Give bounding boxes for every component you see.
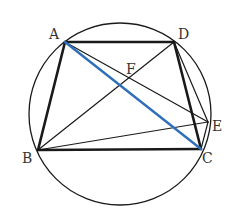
point-label-f: F (126, 61, 136, 77)
segment-ce (201, 122, 208, 149)
segment-bc (38, 149, 201, 150)
point-label-d: D (178, 26, 189, 42)
circumscribed-circle (29, 23, 211, 205)
geometry-diagram: ADFEBC (0, 0, 236, 213)
point-label-a: A (48, 26, 60, 42)
segment-be (38, 122, 208, 150)
point-label-b: B (22, 150, 32, 166)
point-label-c: C (202, 150, 213, 166)
segment-ae (65, 42, 208, 122)
segment-bd (38, 42, 174, 150)
segment-ab (38, 42, 65, 150)
segments-group (38, 42, 208, 150)
point-label-e: E (212, 118, 222, 134)
